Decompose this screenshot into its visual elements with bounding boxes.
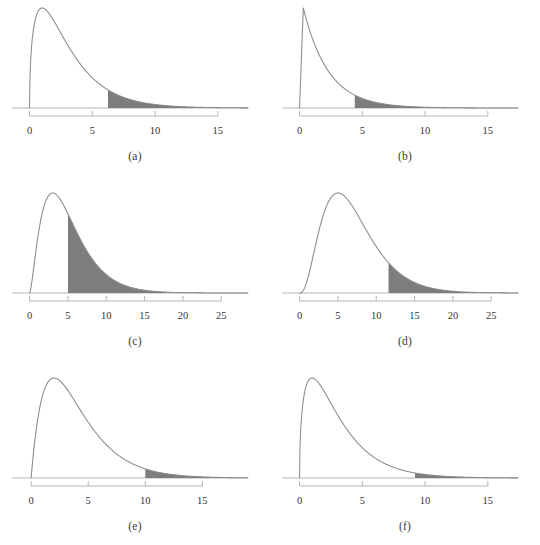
x-axis-ticks (300, 111, 488, 116)
plot-area-f: 051015 (270, 370, 540, 520)
x-tick-label: 20 (448, 310, 459, 321)
x-axis-ticks (31, 481, 202, 486)
x-tick-label: 10 (420, 125, 431, 136)
panel-caption-b: (b) (270, 150, 540, 162)
tail-shaded-region (68, 214, 248, 293)
x-tick-label: 10 (101, 310, 112, 321)
x-tick-label: 15 (409, 310, 420, 321)
x-axis-tick-labels: 0510152025 (27, 310, 226, 321)
x-tick-label: 15 (483, 495, 494, 506)
x-axis-tick-labels: 0510152025 (297, 310, 496, 321)
tail-shaded-region (355, 95, 518, 108)
x-tick-label: 0 (297, 310, 302, 321)
tail-shaded-region (389, 263, 518, 293)
panel-caption-c: (c) (0, 335, 270, 347)
panel-a: 051015 (a) (0, 0, 270, 182)
x-tick-label: 0 (27, 125, 32, 136)
density-curve (31, 378, 248, 478)
x-tick-label: 15 (139, 310, 150, 321)
x-tick-label: 5 (86, 495, 91, 506)
x-tick-label: 10 (371, 310, 382, 321)
panel-caption-d: (d) (270, 335, 540, 347)
density-curve (300, 193, 518, 293)
panel-caption-f: (f) (270, 520, 540, 532)
panel-caption-e: (e) (0, 520, 270, 532)
density-chart-b: 051015 (270, 0, 540, 150)
x-axis-ticks (300, 296, 492, 301)
panel-d: 0510152025 (d) (270, 185, 540, 367)
x-axis-ticks (30, 296, 222, 301)
x-tick-label: 5 (335, 310, 340, 321)
x-tick-label: 15 (197, 495, 208, 506)
density-curve (300, 378, 518, 478)
chi-square-figure-grid: 051015 (a) 051015 (b) 0510152025 (c) 051… (0, 0, 540, 545)
density-curve (300, 8, 518, 108)
plot-area-d: 0510152025 (270, 185, 540, 335)
x-tick-label: 10 (140, 495, 151, 506)
x-tick-label: 0 (297, 125, 302, 136)
x-tick-label: 10 (420, 495, 431, 506)
x-tick-label: 5 (360, 125, 365, 136)
x-axis-tick-labels: 051015 (27, 125, 223, 136)
density-chart-d: 0510152025 (270, 185, 540, 335)
x-tick-label: 0 (29, 495, 34, 506)
x-axis-tick-labels: 051015 (297, 125, 493, 136)
x-tick-label: 15 (483, 125, 494, 136)
x-tick-label: 20 (178, 310, 189, 321)
x-tick-label: 5 (90, 125, 95, 136)
plot-area-a: 051015 (0, 0, 270, 150)
x-tick-label: 5 (65, 310, 70, 321)
x-tick-label: 0 (27, 310, 32, 321)
panel-f: 051015 (f) (270, 370, 540, 545)
panel-e: 051015 (e) (0, 370, 270, 545)
x-tick-label: 10 (150, 125, 161, 136)
x-axis-tick-labels: 051015 (29, 495, 208, 506)
x-tick-label: 5 (360, 495, 365, 506)
x-axis-ticks (30, 111, 218, 116)
density-chart-c: 0510152025 (0, 185, 270, 335)
plot-area-c: 0510152025 (0, 185, 270, 335)
x-tick-label: 25 (486, 310, 497, 321)
density-chart-a: 051015 (0, 0, 270, 150)
plot-area-b: 051015 (270, 0, 540, 150)
density-chart-e: 051015 (0, 370, 270, 520)
panel-b: 051015 (b) (270, 0, 540, 182)
density-chart-f: 051015 (270, 370, 540, 520)
panel-c: 0510152025 (c) (0, 185, 270, 367)
x-tick-label: 25 (216, 310, 227, 321)
density-curve (30, 193, 248, 293)
x-axis-ticks (300, 481, 488, 486)
density-curve (30, 8, 248, 108)
plot-area-e: 051015 (0, 370, 270, 520)
x-tick-label: 0 (297, 495, 302, 506)
panel-caption-a: (a) (0, 150, 270, 162)
x-axis-tick-labels: 051015 (297, 495, 493, 506)
x-tick-label: 15 (213, 125, 224, 136)
